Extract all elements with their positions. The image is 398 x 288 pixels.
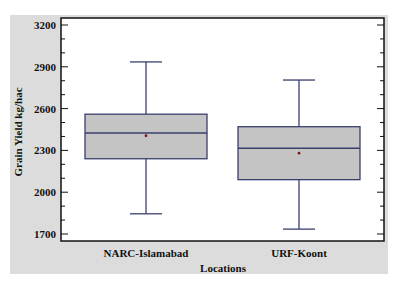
y-tick-label: 1700 xyxy=(34,228,57,240)
y-tick-label: 2900 xyxy=(34,61,57,73)
category-label-urf-koont: URF-Koont xyxy=(271,247,327,259)
mean-marker xyxy=(145,134,148,137)
y-axis-title: Grain Yield kg/hac xyxy=(12,87,24,176)
category-label-narc-islamabad: NARC-Islamabad xyxy=(104,247,189,259)
y-tick-label: 3200 xyxy=(34,19,57,31)
mean-marker xyxy=(298,152,301,155)
y-tick-label: 2300 xyxy=(34,144,57,156)
y-tick-label: 2600 xyxy=(34,103,57,115)
box-plot-chart: 170020002300260029003200 Grain Yield kg/… xyxy=(0,0,398,288)
x-axis-title: Locations xyxy=(200,262,247,274)
y-tick-label: 2000 xyxy=(34,186,57,198)
